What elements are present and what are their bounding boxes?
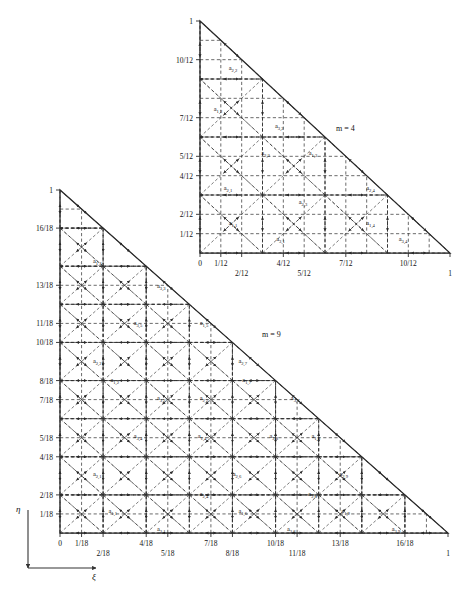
x-tick-label-row2: 1 — [448, 269, 452, 278]
node-label: a3,2 — [275, 122, 284, 131]
node-arrow — [206, 457, 233, 481]
x-tick-label-row2: 2/12 — [235, 269, 248, 278]
node-arrow — [146, 457, 173, 481]
x-tick-label-row2: 11/18 — [289, 549, 306, 558]
node-arrow — [249, 381, 276, 405]
node-label: a2,1 — [93, 470, 102, 479]
node-arrow — [325, 195, 364, 231]
node-label: a1,3 — [93, 257, 102, 266]
node-label-subscript: 1,4 — [201, 436, 207, 441]
node-label: a3,5 — [134, 319, 143, 328]
node-label: a1,3 — [309, 149, 318, 158]
node-label-subscript: 3,6 — [290, 530, 296, 535]
node-arrow — [286, 137, 325, 173]
node-label-subscript: 3,3 — [264, 154, 270, 159]
y-tick-label: 4/18 — [40, 452, 53, 461]
node-label-subscript: 2,6 — [236, 474, 242, 479]
node-label: a3,2 — [157, 394, 166, 403]
node-label-subscript: 3,1 — [160, 530, 166, 535]
node-label-subscript: 1,2 — [217, 110, 223, 115]
y-tick-label: 5/18 — [40, 433, 53, 442]
node-label-subscript: 2,8 — [311, 494, 317, 499]
node-label-subscript: 2,2 — [232, 68, 238, 73]
x-tick-label-row1: 10/18 — [267, 539, 284, 548]
node-label: a3,9 — [392, 525, 401, 534]
node-arrow — [224, 137, 263, 173]
node-label: a2,6 — [233, 470, 242, 479]
node-label: a2,3 — [299, 198, 308, 207]
node-arrow — [163, 457, 190, 481]
node-label-subscript: 2,7 — [241, 361, 247, 366]
axis-label-xi: ξ — [92, 572, 96, 582]
y-tick-label: 2/12 — [180, 210, 193, 219]
node-label-subscript: 1,8 — [314, 436, 320, 441]
node-label-subscript: 2,4 — [203, 494, 209, 499]
node-label: a1,2 — [110, 376, 119, 385]
node-label: a1,1 — [229, 219, 238, 228]
node-label: a3,4 — [134, 432, 143, 441]
y-tick-label: 11/18 — [36, 319, 53, 328]
node-label: a2,5 — [200, 394, 209, 403]
node-label: a3,8 — [270, 432, 279, 441]
node-label-subscript: 3,3 — [160, 286, 166, 291]
node-label-subscript: 3,1 — [279, 240, 285, 245]
node-label-subscript: 2,1 — [96, 474, 102, 479]
x-tick-label-row1: 4/18 — [140, 539, 153, 548]
node-arrow — [146, 419, 173, 443]
y-tick-label: 1 — [189, 17, 193, 26]
y-tick-label: 7/18 — [40, 395, 53, 404]
m-value-label: m = 9 — [262, 330, 281, 339]
node-arrow — [292, 457, 319, 481]
x-tick-label-row1: 4/12 — [277, 259, 290, 268]
x-tick-label-row1: 10/12 — [400, 259, 417, 268]
x-tick-label-row2: 2/18 — [96, 549, 109, 558]
x-tick-label-row1: 0 — [58, 539, 62, 548]
node-label-subscript: 3,2 — [160, 399, 166, 404]
axis-label-eta: η — [16, 504, 20, 514]
y-tick-label: 4/12 — [180, 171, 193, 180]
y-tick-label: 13/18 — [36, 281, 53, 290]
x-tick-label-row1: 0 — [198, 259, 202, 268]
node-label: a2,2 — [93, 357, 102, 366]
node-label-subscript: 3,4 — [137, 436, 143, 441]
node-label: a3,3 — [261, 149, 270, 158]
x-tick-label-row1: 7/18 — [204, 539, 217, 548]
node-label: a3,6 — [287, 525, 296, 534]
node-arrow — [325, 217, 364, 253]
y-tick-label: 1/18 — [40, 509, 53, 518]
node-label: a1,9 — [341, 507, 350, 516]
node-label-subscript: 2,3 — [302, 202, 308, 207]
node-label-subscript: 1,1 — [232, 223, 238, 228]
y-tick-label: 2/18 — [40, 490, 53, 499]
node-label: a3,3 — [157, 282, 166, 291]
node-label: a1,5 — [200, 319, 209, 328]
node-label-subscript: 1,1 — [111, 512, 117, 517]
node-label: a3,1 — [157, 525, 166, 534]
m-value-label: m = 4 — [336, 124, 355, 133]
node-label-subscript: 2,1 — [227, 188, 233, 193]
node-label: a2,4 — [200, 490, 209, 499]
node-label: a3,4 — [399, 235, 408, 244]
node-label: a2,2 — [229, 64, 238, 73]
y-tick-label: 8/18 — [40, 376, 53, 385]
y-tick-label: 5/12 — [180, 152, 193, 161]
node-arrow — [249, 457, 276, 481]
node-label-subscript: 3,5 — [137, 323, 143, 328]
node-arrow — [200, 137, 239, 173]
node-label-subscript: 1,3 — [96, 261, 102, 266]
node-label: a2,1 — [224, 184, 233, 193]
node-arrow — [200, 159, 239, 195]
node-label: a2,8 — [308, 490, 317, 499]
node-arrow — [163, 381, 190, 405]
node-label: a2,4 — [366, 184, 375, 193]
node-label-subscript: 1,4 — [369, 223, 375, 228]
y-tick-label: 10/12 — [176, 55, 193, 64]
node-arrow — [224, 79, 263, 115]
y-tick-label: 1 — [49, 186, 53, 195]
node-label: a1,4 — [366, 219, 375, 228]
x-tick-label-row1: 13/18 — [332, 539, 349, 548]
y-tick-label: 1/12 — [180, 229, 193, 238]
node-label-subscript: 2,9 — [342, 474, 348, 479]
node-label-subscript: 1,5 — [203, 323, 209, 328]
x-tick-label-row1: 7/12 — [339, 259, 352, 268]
